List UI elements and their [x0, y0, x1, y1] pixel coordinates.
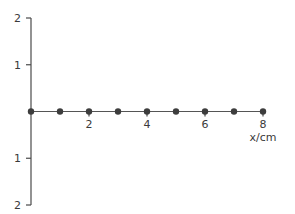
data-point — [28, 108, 34, 114]
data-point — [260, 108, 266, 114]
y-tick-label: 2 — [14, 12, 21, 25]
x-tick-label: 2 — [86, 118, 93, 131]
series — [28, 108, 266, 114]
x-tick-label: 8 — [260, 118, 267, 131]
x-tick-label: 4 — [144, 118, 151, 131]
data-point — [173, 108, 179, 114]
data-point — [115, 108, 121, 114]
chart: 2112 2468 x/cm — [0, 0, 295, 214]
data-point — [57, 108, 63, 114]
data-point — [231, 108, 237, 114]
y-tick-label: 1 — [14, 152, 21, 165]
data-point — [144, 108, 150, 114]
y-tick-label: 1 — [14, 59, 21, 72]
x-axis-label: x/cm — [250, 131, 277, 144]
y-tick-label: 2 — [14, 199, 21, 212]
data-point — [86, 108, 92, 114]
x-tick-label: 6 — [202, 118, 209, 131]
data-point — [202, 108, 208, 114]
